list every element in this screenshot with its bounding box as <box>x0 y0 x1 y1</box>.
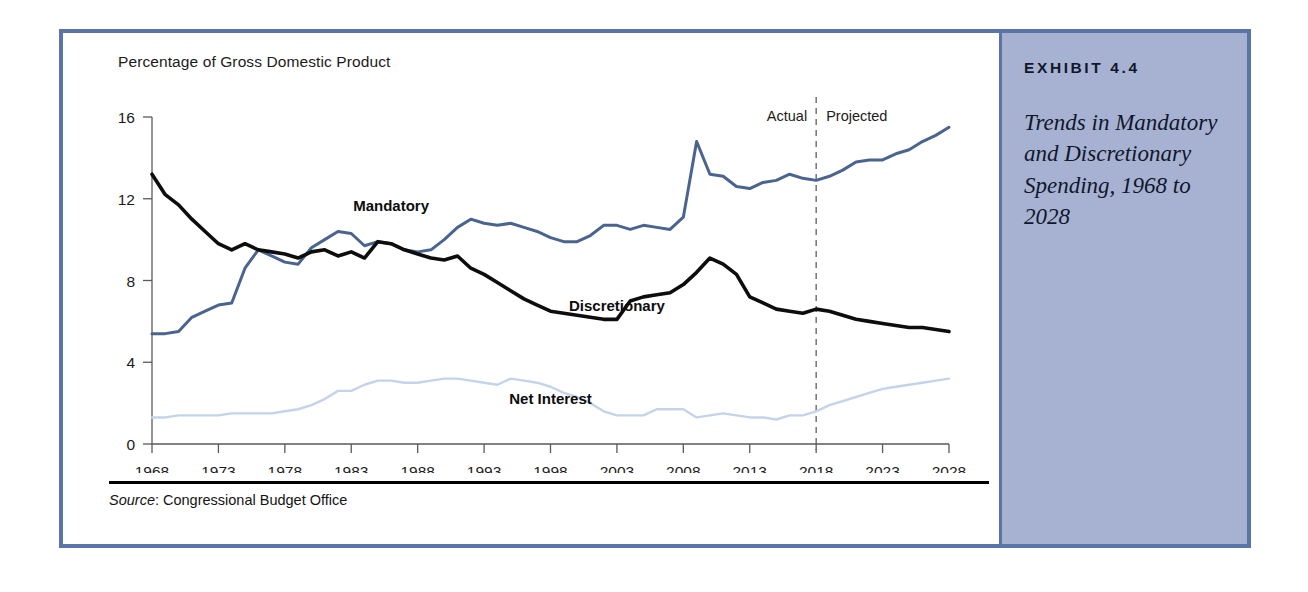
x-tick-label: 1968 <box>135 463 169 473</box>
x-tick-label: 2003 <box>600 463 634 473</box>
series-label-discretionary: Discretionary <box>569 297 666 314</box>
x-tick-label: 2018 <box>799 463 833 473</box>
x-tick-label: 1988 <box>400 463 434 473</box>
x-tick-label: 2023 <box>865 463 899 473</box>
actual-label: Actual <box>767 108 807 124</box>
x-tick-label: 2028 <box>932 463 966 473</box>
source-label: Source <box>109 492 155 508</box>
source-separator: : <box>155 492 163 508</box>
source-divider-rule <box>109 481 989 484</box>
exhibit-caption-pane: EXHIBIT 4.4 Trends in Mandatory and Disc… <box>999 33 1247 544</box>
chart-series-group <box>152 127 949 419</box>
actual-projected-divider: ActualProjected <box>767 97 888 450</box>
chart-axes: 0481216196819731978198319881993199820032… <box>118 109 966 473</box>
y-tick-label: 16 <box>118 109 135 126</box>
chart-inline-labels: MandatoryDiscretionaryNet Interest <box>353 197 665 407</box>
x-tick-label: 1993 <box>467 463 501 473</box>
series-label-net-interest: Net Interest <box>509 390 592 407</box>
projected-label: Projected <box>826 108 887 124</box>
y-tick-label: 4 <box>126 354 135 371</box>
series-label-mandatory: Mandatory <box>353 197 430 214</box>
y-tick-label: 0 <box>126 436 135 453</box>
exhibit-number: EXHIBIT 4.4 <box>1024 59 1227 77</box>
x-tick-label: 1973 <box>201 463 235 473</box>
chart-pane: Percentage of Gross Domestic Product 048… <box>63 33 999 544</box>
x-tick-label: 2008 <box>666 463 700 473</box>
y-tick-label: 8 <box>126 273 135 290</box>
x-tick-label: 1978 <box>268 463 302 473</box>
line-chart: 0481216196819731978198319881993199820032… <box>63 33 999 473</box>
source-note: Source: Congressional Budget Office <box>109 492 347 508</box>
x-tick-label: 2013 <box>733 463 767 473</box>
exhibit-frame: Percentage of Gross Domestic Product 048… <box>59 29 1251 548</box>
series-line-discretionary <box>152 174 949 331</box>
x-tick-label: 1998 <box>533 463 567 473</box>
y-tick-label: 12 <box>118 191 135 208</box>
x-tick-label: 1983 <box>334 463 368 473</box>
exhibit-title: Trends in Mandatory and Discretionary Sp… <box>1024 107 1227 232</box>
source-text: Congressional Budget Office <box>163 492 347 508</box>
series-line-mandatory <box>152 127 949 333</box>
